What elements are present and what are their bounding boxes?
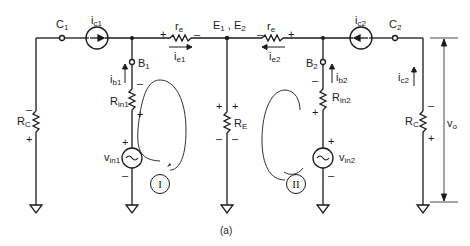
- circuit-diagram: C1 C2 B1 B2 E1 , E2 ic1 ic2 ic2 ib1 ib2 …: [0, 0, 470, 246]
- figure-caption: (a): [220, 225, 232, 236]
- current-ie1-label: ie1: [174, 51, 185, 64]
- resistor-rc-left-label: RC: [17, 116, 31, 129]
- vin2-minus: –: [328, 170, 334, 181]
- source-vin1-label: vin1: [104, 152, 120, 165]
- re-plus-right: +: [232, 101, 238, 112]
- re-plus-left: +: [216, 101, 222, 112]
- rc-left-minus: –: [26, 104, 32, 115]
- rin2-minus: –: [312, 75, 318, 86]
- re1-minus: –: [194, 29, 200, 40]
- node-e1-e2-label: E1 , E2: [213, 20, 246, 33]
- resistor-re-label: RE: [234, 118, 247, 131]
- current-ic1-label: ic1: [91, 15, 102, 28]
- loop-i-label: I: [150, 174, 170, 194]
- re2-minus: –: [257, 29, 263, 40]
- node-b1-label: B1: [138, 58, 150, 71]
- resistor-rin1-label: Rin1: [110, 96, 129, 109]
- output-vo-label: vo: [447, 118, 457, 131]
- rc-right-plus: +: [428, 133, 434, 144]
- source-vin2-label: vin2: [339, 152, 355, 165]
- vin1-plus: +: [122, 137, 128, 148]
- re1-plus: +: [160, 29, 166, 40]
- rin2-plus: +: [312, 107, 318, 118]
- vin2-plus: +: [328, 136, 334, 147]
- re2-plus: +: [288, 29, 294, 40]
- node-c1-label: C1: [56, 19, 68, 32]
- rc-right-minus: –: [428, 100, 434, 111]
- rin1-plus: +: [137, 109, 143, 120]
- current-ie2-label: ie2: [269, 51, 280, 64]
- current-ic2-side-label: ic2: [398, 72, 409, 85]
- node-b2-label: B2: [306, 58, 318, 71]
- current-ic2-top-label: ic2: [355, 15, 366, 28]
- current-ib1-label: ib1: [110, 74, 121, 87]
- resistor-re1-label: re: [175, 21, 183, 34]
- resistor-rin2-label: Rin2: [332, 92, 351, 105]
- rin1-minus: –: [137, 78, 143, 89]
- re-minus-right: –: [232, 133, 238, 144]
- node-c2-label: C2: [389, 19, 401, 32]
- vin1-minus: –: [122, 170, 128, 181]
- resistor-rc-right-label: RC: [405, 116, 419, 129]
- resistor-re2-label: re: [267, 21, 275, 34]
- rc-left-plus: +: [26, 134, 32, 145]
- loop-ii-label: II: [286, 174, 306, 194]
- current-ib2-label: ib2: [336, 72, 347, 85]
- re-minus-left: –: [216, 133, 222, 144]
